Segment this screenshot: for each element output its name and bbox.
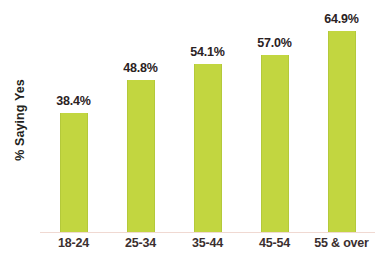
x-axis-tick-label: 25-34	[107, 236, 174, 250]
bar-rect[interactable]	[127, 80, 155, 231]
bar-column[interactable]: 54.1%	[174, 0, 241, 232]
plot-area: 38.4% 48.8% 54.1% 57.0% 64.9%	[40, 0, 375, 233]
bar-value-label: 48.8%	[123, 61, 157, 75]
bar-column[interactable]: 64.9%	[308, 0, 375, 232]
y-axis-title-label: % Saying Yes	[13, 79, 27, 161]
bar-chart: % Saying Yes 38.4% 48.8% 54.1% 57.0%	[0, 0, 375, 267]
x-axis-labels: 18-24 25-34 35-44 45-54 55 & over	[40, 236, 375, 262]
bar-rect[interactable]	[194, 64, 222, 232]
x-axis-tick-label: 18-24	[40, 236, 107, 250]
bar-slot: 54.1%	[174, 0, 241, 232]
bar-rect[interactable]	[261, 55, 289, 232]
bar-value-label: 57.0%	[257, 36, 291, 50]
bar-value-label: 38.4%	[56, 94, 90, 108]
bar-rect[interactable]	[328, 31, 356, 232]
bar-column[interactable]: 38.4%	[40, 0, 107, 232]
bar-slot: 48.8%	[107, 0, 174, 232]
bar-slot: 38.4%	[40, 0, 107, 232]
bar-slot: 57.0%	[241, 0, 308, 232]
bar-column[interactable]: 48.8%	[107, 0, 174, 232]
y-axis-title: % Saying Yes	[0, 0, 40, 240]
bar-rect[interactable]	[60, 113, 88, 232]
bar-value-label: 64.9%	[324, 12, 358, 26]
x-axis-tick-label: 35-44	[174, 236, 241, 250]
x-axis-baseline	[40, 232, 375, 234]
x-axis-tick-label: 55 & over	[308, 236, 375, 250]
bar-column[interactable]: 57.0%	[241, 0, 308, 232]
x-axis-tick-label: 45-54	[241, 236, 308, 250]
bar-value-label: 54.1%	[190, 45, 224, 59]
bar-slot: 64.9%	[308, 0, 375, 232]
